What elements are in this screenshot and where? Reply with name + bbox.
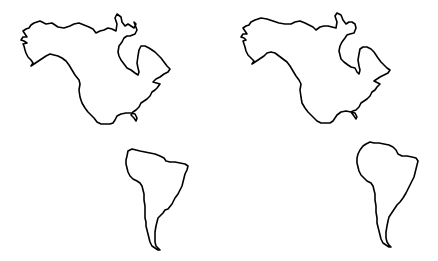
right-map-panel	[219, 0, 438, 261]
south-america-outline	[126, 149, 188, 250]
right-map-svg	[219, 0, 438, 261]
left-map-svg	[0, 0, 219, 261]
left-map-panel	[0, 0, 219, 261]
north-america-outline	[21, 14, 170, 124]
north-america-outline	[241, 13, 390, 123]
south-america-outline	[357, 142, 418, 247]
